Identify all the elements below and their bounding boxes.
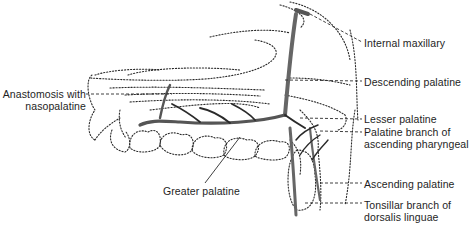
label-anastomosis-line1: Anastomosis with bbox=[3, 89, 86, 100]
label-ascending-palatine: Ascending palatine bbox=[364, 179, 455, 190]
label-greater-palatine: Greater palatine bbox=[163, 186, 240, 197]
label-descending-palatine: Descending palatine bbox=[364, 77, 461, 88]
label-tonsillar-line1: Tonsillar branch of bbox=[364, 200, 451, 211]
label-palatine-branch-line2: ascending pharyngeal bbox=[364, 139, 469, 150]
ascending-palatine-artery bbox=[290, 128, 296, 215]
label-lesser-palatine: Lesser palatine bbox=[364, 114, 437, 125]
label-tonsillar-line2: dorsalis linguae bbox=[364, 212, 439, 223]
greater-palatine-leader bbox=[205, 137, 240, 183]
label-internal-maxillary: Internal maxillary bbox=[364, 38, 445, 49]
descending-palatine-artery bbox=[285, 14, 296, 115]
label-palatine-branch-line1: Palatine branch of bbox=[364, 127, 450, 138]
greater-palatine-artery bbox=[140, 115, 285, 125]
label-anastomosis-line2: nasopalatine bbox=[25, 101, 86, 112]
anastomosis-nasopalatine-artery bbox=[160, 85, 170, 118]
